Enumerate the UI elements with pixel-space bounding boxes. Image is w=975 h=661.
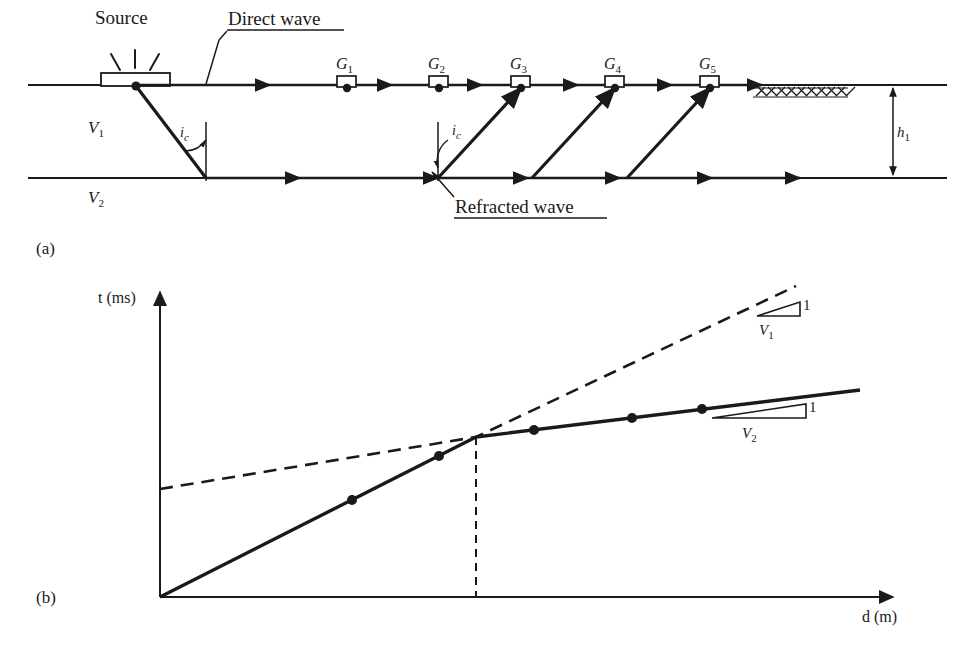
downgoing-ray	[136, 86, 206, 178]
upgoing-ray-g4	[532, 88, 615, 178]
slope-v1-run-label: V1	[759, 322, 774, 341]
slope-triangle-v1: 1 V1	[757, 297, 811, 341]
layer-thickness-dimension: h1	[893, 88, 910, 175]
data-point-5	[697, 404, 707, 414]
x-axis-label: d (m)	[862, 608, 897, 626]
bedrock-hatching	[753, 87, 855, 97]
geophone-3: G3	[510, 55, 530, 92]
geophone-1-label: G1	[336, 55, 353, 75]
geophone-4-label: G4	[604, 55, 622, 75]
geophone-2: G2	[428, 55, 448, 92]
geophone-3-label: G3	[510, 55, 528, 75]
geophone-5: G5	[699, 55, 719, 92]
slope-v1-rise-label: 1	[803, 297, 811, 313]
refracted-extrapolation-line	[160, 286, 796, 489]
critical-angle-label-2: ic	[452, 123, 461, 141]
refracted-wave-leader	[432, 172, 454, 197]
slope-triangle-v1-shape	[757, 302, 800, 316]
geophone-1: G1	[336, 55, 356, 92]
critical-angle-label-1: ic	[180, 125, 189, 143]
upgoing-ray-g3	[438, 88, 521, 178]
layer-thickness-label: h1	[897, 124, 910, 143]
y-axis-label: t (ms)	[98, 289, 136, 307]
seismic-refraction-figure: Source Direct wave G1 G2	[0, 0, 975, 661]
panel-a-cross-section: Source Direct wave G1 G2	[28, 7, 947, 258]
geophone-4: G4	[604, 55, 624, 92]
velocity-lower-label: V2	[88, 188, 104, 209]
figure-root: Source Direct wave G1 G2	[0, 0, 975, 661]
data-point-2	[434, 451, 444, 461]
geophone-1-point	[343, 84, 351, 92]
upgoing-rays	[438, 88, 710, 178]
data-point-markers	[347, 404, 707, 505]
upgoing-ray-g5	[627, 88, 710, 178]
panel-a-label: (a)	[36, 239, 55, 258]
refracted-wave-label: Refracted wave	[455, 196, 574, 217]
geophone-2-point	[435, 84, 443, 92]
geophone-array: G1 G2 G3 G4 G5	[336, 55, 719, 92]
geophone-2-label: G2	[428, 55, 445, 75]
direct-wave-leader	[206, 31, 227, 84]
panel-b-travel-time-graph: t (ms) d (m) 1 V1 1 V2 (b)	[36, 286, 897, 626]
geophone-5-label: G5	[699, 55, 717, 75]
source-label: Source	[95, 7, 148, 28]
source-burst-icon	[111, 50, 159, 70]
data-point-3	[529, 425, 539, 435]
slope-v2-rise-label: 1	[809, 399, 817, 415]
velocity-upper-label: V1	[88, 118, 104, 139]
panel-b-label: (b)	[36, 588, 56, 607]
data-point-4	[627, 413, 637, 423]
data-point-1	[347, 495, 357, 505]
slope-v2-run-label: V2	[742, 425, 757, 444]
direct-wave-label: Direct wave	[228, 8, 320, 29]
critical-angle-arc-1	[186, 140, 206, 151]
